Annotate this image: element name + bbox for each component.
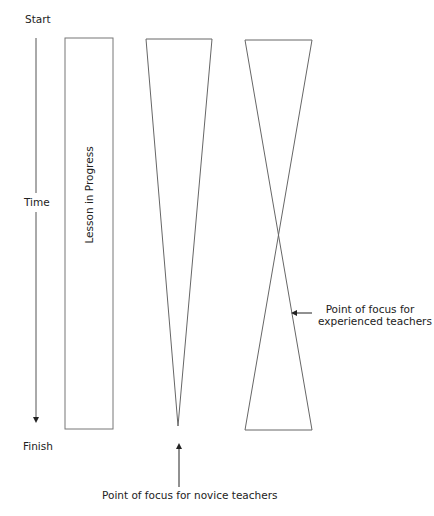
lesson-bar-label: Lesson in Progress — [83, 146, 95, 243]
experienced-annotation-line2: experienced teachers — [318, 315, 422, 327]
time-label: Time — [24, 196, 50, 208]
novice-annotation: Point of focus for novice teachers — [102, 489, 277, 501]
experienced-annotation: Point of focus for experienced teachers — [318, 303, 422, 327]
diagram-canvas — [0, 0, 434, 516]
experienced-annotation-line1: Point of focus for — [318, 303, 422, 315]
start-label: Start — [25, 13, 51, 25]
experienced-focus-hourglass — [245, 40, 312, 430]
novice-focus-triangle — [146, 39, 212, 426]
finish-label: Finish — [23, 440, 53, 452]
